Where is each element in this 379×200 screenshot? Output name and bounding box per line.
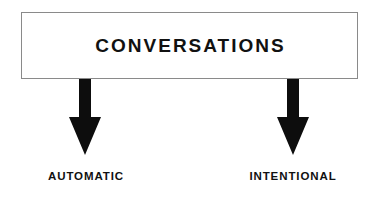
- down-arrow-icon-left: [68, 79, 102, 156]
- diagram-canvas: CONVERSATIONS AUTOMATIC INTENTIONAL: [0, 0, 379, 200]
- down-arrow-icon-right: [276, 79, 310, 156]
- root-node-conversations: CONVERSATIONS: [21, 12, 358, 79]
- branch-label-automatic: AUTOMATIC: [6, 171, 166, 183]
- branch-label-intentional: INTENTIONAL: [213, 171, 373, 183]
- root-node-label: CONVERSATIONS: [93, 36, 285, 55]
